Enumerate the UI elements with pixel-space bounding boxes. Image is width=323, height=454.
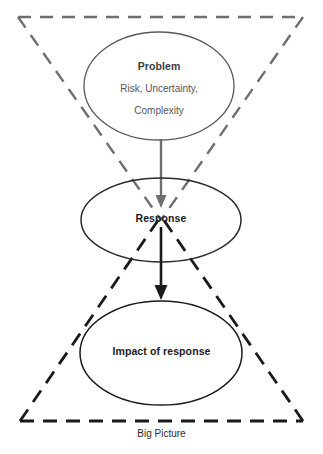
response-to-impact-arrow-head: [155, 285, 168, 300]
big-picture-caption: Big Picture: [0, 428, 323, 439]
impact-ellipse: [80, 301, 242, 405]
problem-to-response-arrow-head: [156, 195, 167, 208]
problem-to-response-arrow: [156, 139, 167, 208]
problem-ellipse: [84, 32, 234, 140]
diagram-canvas: Problem Risk, Uncertainty, Complexity Re…: [0, 0, 323, 454]
hourglass-diagram: [0, 0, 323, 454]
response-to-impact-arrow: [155, 227, 168, 300]
